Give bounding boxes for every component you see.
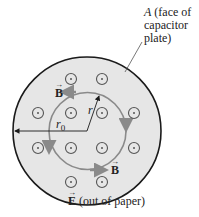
r-label: r bbox=[88, 104, 93, 117]
b-label-bottom: B bbox=[111, 164, 119, 177]
e-label: E (out of paper) bbox=[68, 195, 145, 208]
e-symbol: E bbox=[68, 195, 76, 208]
plate-label: A (face of capacitor plate) bbox=[144, 6, 191, 45]
r0-label: r0 bbox=[56, 118, 65, 135]
e-label-text: (out of paper) bbox=[76, 194, 145, 208]
b-label-top: B bbox=[55, 87, 63, 100]
plate-label-pointer bbox=[125, 42, 142, 72]
plate-label-line-3: plate) bbox=[144, 31, 171, 45]
plate-label-line-2: capacitor bbox=[144, 18, 188, 32]
plate-label-line-1: (face of bbox=[151, 5, 191, 19]
